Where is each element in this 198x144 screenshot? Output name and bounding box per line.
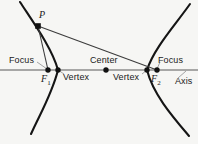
label-focus-right: Focus xyxy=(158,56,183,65)
label-f1: F1 xyxy=(41,74,51,87)
point-f2-marker xyxy=(154,67,159,72)
point-vertex-left-marker xyxy=(55,67,60,72)
label-focus-left: Focus xyxy=(9,56,34,65)
leader-focus-left xyxy=(37,62,47,69)
label-axis: Axis xyxy=(175,77,192,86)
label-center: Center xyxy=(90,56,118,65)
label-vertex-right: Vertex xyxy=(113,73,139,82)
label-point-p: P xyxy=(39,10,45,20)
label-f2: F2 xyxy=(151,74,161,87)
hyperbola-figure: P Focus Focus Center Vertex Vertex F1 F2… xyxy=(0,0,198,144)
point-p-marker xyxy=(35,23,41,29)
label-vertex-left: Vertex xyxy=(63,73,89,82)
label-f2-subscript: 2 xyxy=(157,79,161,87)
point-center-marker xyxy=(103,67,108,72)
left-branch-curve xyxy=(20,2,58,134)
diagram-canvas xyxy=(0,0,198,144)
point-vertex-right-marker xyxy=(144,67,149,72)
label-f1-subscript: 1 xyxy=(47,79,51,87)
point-f1-marker xyxy=(45,67,50,72)
